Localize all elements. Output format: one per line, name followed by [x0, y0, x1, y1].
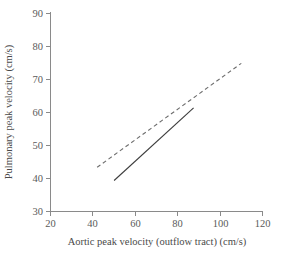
y-axis-title: Pulmonary peak velocity (cm/s): [3, 44, 15, 179]
x-tick-label-60: 60: [130, 218, 141, 229]
x-tick-label-20: 20: [45, 218, 56, 229]
x-tick-label-120: 120: [255, 218, 271, 229]
x-axis-title: Aortic peak velocity (outflow tract) (cm…: [68, 236, 247, 248]
x-tick-label-80: 80: [172, 218, 183, 229]
y-tick-label-70: 70: [33, 74, 44, 85]
x-tick-label-100: 100: [213, 218, 229, 229]
dashed-regression-line: [97, 63, 241, 167]
x-tick-label-40: 40: [87, 218, 98, 229]
y-tick-label-90: 90: [33, 8, 44, 19]
x-axis-ticks: [51, 212, 263, 216]
chart-figure: 30 40 50 60 70 80 90 20 40 60 80 100 120…: [0, 0, 284, 261]
y-axis-ticks: [46, 14, 50, 212]
solid-regression-line: [114, 108, 194, 181]
y-tick-label-80: 80: [33, 41, 44, 52]
y-tick-label-30: 30: [33, 206, 44, 217]
y-tick-label-50: 50: [33, 140, 44, 151]
y-tick-label-60: 60: [33, 107, 44, 118]
y-tick-label-40: 40: [33, 173, 44, 184]
chart-plot-area: 30 40 50 60 70 80 90 20 40 60 80 100 120…: [0, 0, 284, 261]
